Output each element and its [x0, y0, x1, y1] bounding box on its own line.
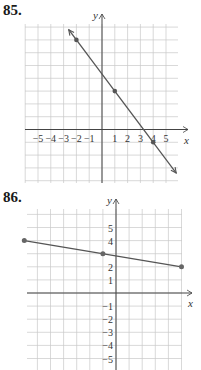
graph-86: xy5421−1−2−3−4−5 [0, 185, 201, 370]
y-tick-label: −5 [102, 354, 113, 365]
x-tick-label: 5 [164, 133, 169, 144]
x-axis-label: x [183, 134, 189, 146]
data-point [74, 38, 79, 43]
y-axis-label: y [106, 194, 112, 206]
x-axis-label: x [187, 297, 193, 309]
x-tick-label: −3 [58, 133, 69, 144]
x-tick-label: 3 [138, 133, 143, 144]
x-tick-label: 1 [112, 133, 117, 144]
x-tick-label: −4 [45, 133, 56, 144]
y-axis-label: y [92, 9, 98, 21]
plotted-line [69, 30, 177, 173]
y-tick-label: 2 [108, 262, 113, 273]
data-point [179, 264, 184, 269]
data-point [113, 89, 118, 94]
y-tick-label: −4 [102, 340, 113, 351]
data-point [22, 238, 27, 243]
y-tick-label: −1 [102, 301, 113, 312]
y-tick-label: 4 [108, 236, 113, 247]
y-tick-label: 1 [108, 275, 113, 286]
data-point [100, 251, 105, 256]
y-tick-label: 5 [108, 223, 113, 234]
data-point [151, 140, 156, 145]
x-tick-label: −1 [84, 133, 95, 144]
x-tick-label: 2 [125, 133, 130, 144]
y-tick-label: −3 [102, 327, 113, 338]
graph-85: xy−5−4−3−2−112345 [0, 0, 201, 185]
x-tick-label: −2 [71, 133, 82, 144]
x-tick-label: −5 [33, 133, 44, 144]
y-tick-label: −2 [102, 314, 113, 325]
